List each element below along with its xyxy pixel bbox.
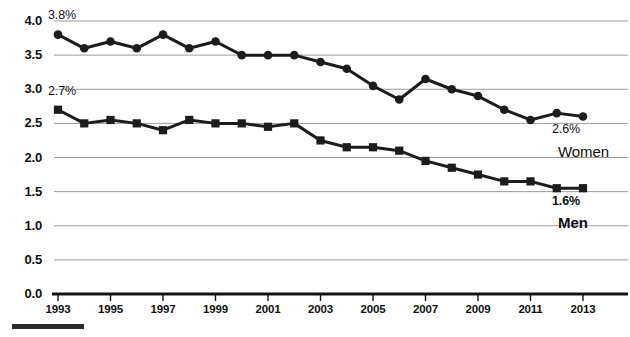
data-point-men [185,116,193,124]
line-chart: 0.00.51.01.52.02.53.03.54.0 199319951997… [0,0,630,337]
data-point-women [395,95,404,104]
data-point-women [132,44,141,53]
x-axis-label: 2001 [248,303,288,315]
data-point-men [369,143,377,151]
data-point-men [421,157,429,165]
data-point-men [343,143,351,151]
y-axis-label: 3.5 [8,47,42,62]
data-point-women [526,116,535,125]
data-point-men [448,164,456,172]
data-point-men [579,184,587,192]
x-axis-label: 2009 [458,303,498,315]
y-axis-label: 2.0 [8,150,42,165]
data-point-men [80,119,88,127]
data-point-women [474,92,483,101]
data-point-men [211,119,219,127]
y-axis-label: 1.0 [8,218,42,233]
data-point-men [238,119,246,127]
y-axis-label: 2.5 [8,115,42,130]
data-point-women [211,37,220,46]
x-axis-label: 2005 [353,303,393,315]
data-point-men [395,147,403,155]
x-axis-label: 1995 [91,303,131,315]
data-point-women [185,44,194,53]
value-annotation: 3.8% [48,8,76,22]
data-point-men [316,136,324,144]
data-point-women [54,30,63,39]
footer-rule [12,324,84,329]
x-axis-label: 2007 [406,303,446,315]
data-point-women [579,112,588,121]
data-point-women [237,51,246,60]
data-point-men [526,177,534,185]
data-point-women [316,58,325,67]
data-point-men [54,106,62,114]
x-axis-label: 2013 [563,303,603,315]
value-annotation: 1.6% [552,194,580,208]
data-point-men [290,119,298,127]
data-point-men [553,184,561,192]
x-axis-label: 1997 [143,303,183,315]
data-point-men [159,126,167,134]
data-point-women [106,37,115,46]
data-point-women [80,44,89,53]
x-axis-label: 1999 [196,303,236,315]
x-axis-label: 2011 [511,303,551,315]
value-annotation: 2.7% [48,84,76,98]
data-point-women [447,85,456,94]
y-axis-label: 0.0 [8,286,42,301]
chart-plot-area [0,0,630,337]
series-legend-men: Men [558,214,588,231]
data-point-women [342,64,351,73]
y-axis-label: 4.0 [8,13,42,28]
data-point-men [474,170,482,178]
data-point-women [552,109,561,118]
data-point-women [369,82,378,91]
data-point-women [290,51,299,60]
series-legend-women: Women [558,143,609,160]
y-axis-label: 3.0 [8,81,42,96]
data-point-women [421,75,430,84]
data-point-women [500,105,509,114]
x-axis-label: 2003 [301,303,341,315]
x-axis-label: 1993 [38,303,78,315]
data-point-men [106,116,114,124]
data-point-women [159,30,168,39]
value-annotation: 2.6% [552,122,580,136]
data-point-men [264,123,272,131]
data-point-women [264,51,273,60]
data-point-men [133,119,141,127]
y-axis-label: 1.5 [8,184,42,199]
y-axis-label: 0.5 [8,252,42,267]
data-point-men [500,177,508,185]
